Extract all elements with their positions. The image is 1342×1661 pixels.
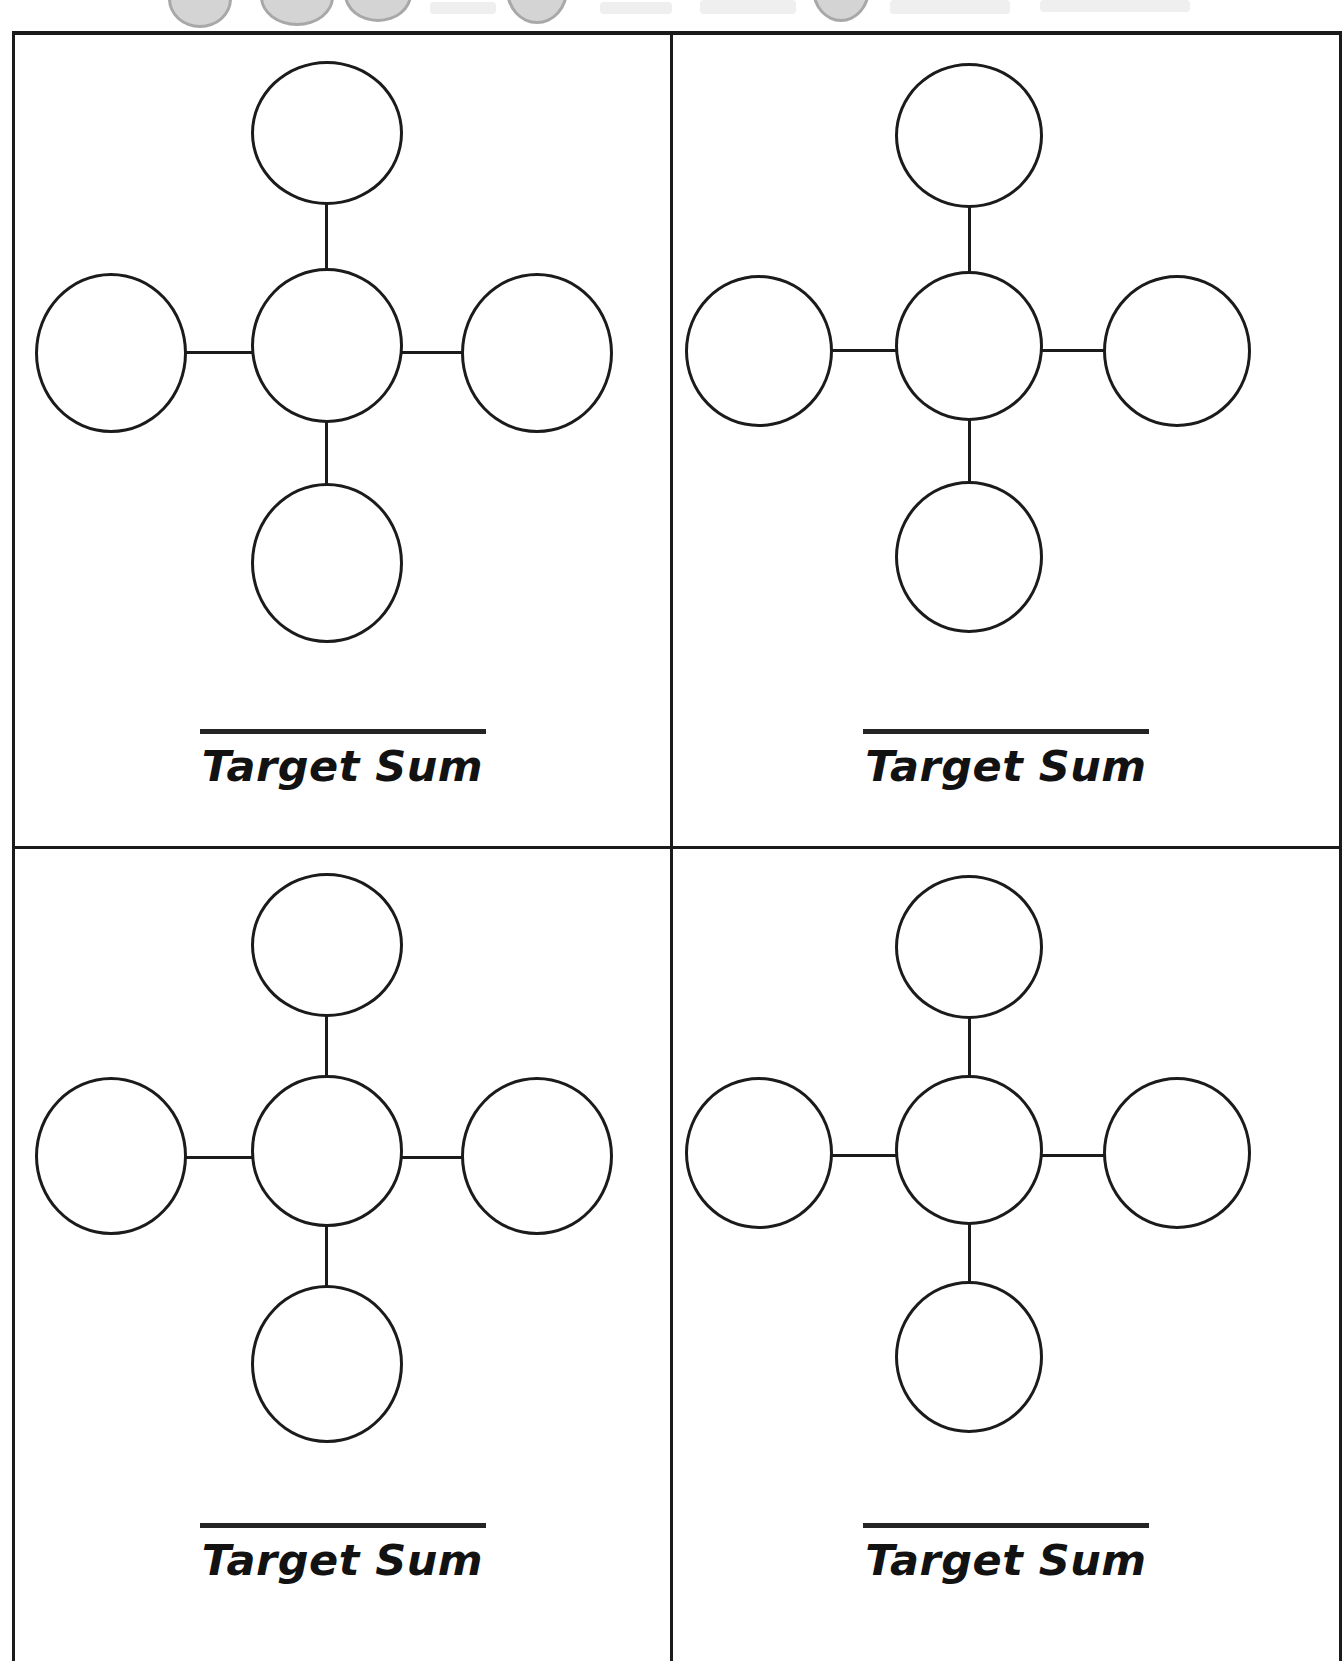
panel-bottom-right: Target Sum [673, 849, 1339, 1661]
bleed-circle-5 [812, 0, 870, 22]
target-sum-group: Target Sum [673, 729, 1339, 789]
connector-top [325, 1015, 328, 1077]
node-left[interactable] [685, 275, 833, 427]
worksheet-page: Target Sum Target Sum [0, 0, 1342, 1661]
node-left[interactable] [35, 1077, 187, 1235]
bleed-circle-3 [344, 0, 412, 22]
bleed-circle-4 [506, 0, 568, 24]
node-center[interactable] [251, 1075, 403, 1227]
cross-puzzle [15, 35, 670, 846]
connector-top [968, 205, 971, 271]
target-sum-answer-line[interactable] [200, 1523, 486, 1528]
node-bottom[interactable] [895, 1281, 1043, 1433]
connector-left [183, 1156, 258, 1159]
target-sum-group: Target Sum [15, 729, 670, 789]
node-right[interactable] [1103, 1077, 1251, 1229]
connector-left [829, 1154, 903, 1157]
connector-bottom [325, 420, 328, 485]
node-center[interactable] [251, 268, 403, 423]
panel-top-left: Target Sum [15, 35, 673, 849]
target-sum-answer-line[interactable] [200, 729, 486, 734]
node-bottom[interactable] [251, 1285, 403, 1443]
target-sum-label: Target Sum [15, 1537, 670, 1583]
node-top[interactable] [251, 873, 403, 1017]
header-bleed-strip [0, 0, 1342, 30]
cross-puzzle [673, 35, 1339, 846]
node-top[interactable] [895, 875, 1043, 1019]
connector-bottom [325, 1225, 328, 1287]
bleed-smudge-4 [890, 0, 1010, 14]
target-sum-label: Target Sum [673, 743, 1339, 789]
target-sum-group: Target Sum [15, 1523, 670, 1583]
node-left[interactable] [35, 273, 187, 433]
node-center[interactable] [895, 271, 1043, 421]
bleed-circle-2 [260, 0, 334, 26]
node-right[interactable] [461, 1077, 613, 1235]
worksheet-grid: Target Sum Target Sum [12, 31, 1342, 1661]
node-right[interactable] [1103, 275, 1251, 427]
connector-top [325, 203, 328, 268]
connector-bottom [968, 1221, 971, 1283]
target-sum-label: Target Sum [15, 743, 670, 789]
node-top[interactable] [895, 63, 1043, 208]
target-sum-answer-line[interactable] [863, 1523, 1149, 1528]
bleed-circle-1 [168, 0, 232, 28]
target-sum-label: Target Sum [673, 1537, 1339, 1583]
connector-left [829, 349, 903, 352]
connector-left [183, 351, 258, 354]
node-bottom[interactable] [251, 483, 403, 643]
connector-bottom [968, 417, 971, 483]
panel-bottom-left: Target Sum [15, 849, 673, 1661]
bleed-smudge-5 [1040, 0, 1190, 12]
panel-top-right: Target Sum [673, 35, 1339, 849]
node-left[interactable] [685, 1077, 833, 1229]
connector-right [1033, 349, 1107, 352]
connector-top [968, 1017, 971, 1079]
connector-right [1033, 1154, 1107, 1157]
target-sum-answer-line[interactable] [863, 729, 1149, 734]
node-bottom[interactable] [895, 481, 1043, 633]
node-center[interactable] [895, 1075, 1043, 1225]
node-right[interactable] [461, 273, 613, 433]
node-top[interactable] [251, 61, 403, 205]
target-sum-group: Target Sum [673, 1523, 1339, 1583]
bleed-smudge-2 [600, 2, 672, 14]
bleed-smudge-1 [430, 2, 496, 14]
bleed-smudge-3 [700, 0, 796, 14]
